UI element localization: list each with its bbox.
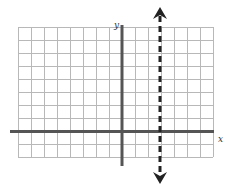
grid-lines — [18, 27, 214, 158]
arrow-down-icon — [153, 172, 167, 184]
y-axis-label: y — [113, 20, 120, 30]
x-axis-label: x — [218, 134, 223, 144]
coordinate-plane: y x — [0, 0, 226, 196]
